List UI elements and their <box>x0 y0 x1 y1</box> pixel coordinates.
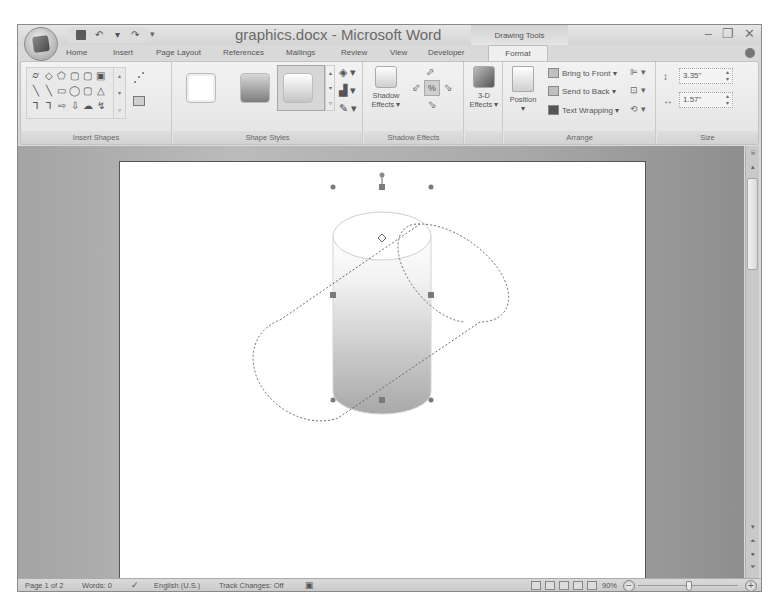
textbox-shape-icon[interactable]: ▣ <box>95 71 106 81</box>
office-button[interactable] <box>24 27 58 61</box>
rotate-button[interactable]: ⟲ ▾ <box>630 104 646 114</box>
shadow-effects-button[interactable]: Shadow Effects ▾ <box>369 66 403 109</box>
next-page-button[interactable]: ⏷ <box>747 562 758 572</box>
restore-button[interactable]: ❐ <box>722 26 734 41</box>
shadow-icon <box>375 66 397 88</box>
tab-home[interactable]: Home <box>66 45 87 61</box>
zoom-out-button[interactable]: − <box>623 580 635 592</box>
undo-dropdown-icon[interactable]: ▾ <box>112 30 122 40</box>
tab-review[interactable]: Review <box>341 45 367 61</box>
window-title: graphics.docx - Microsoft Word <box>235 26 441 43</box>
web-layout-view-icon[interactable] <box>559 581 569 590</box>
redo-icon[interactable]: ↷ <box>130 30 140 40</box>
select-browse-object-button[interactable]: ● <box>747 549 758 559</box>
more-icon[interactable]: ▿ <box>326 96 334 111</box>
line-shape-icon[interactable]: ╲ <box>30 86 41 96</box>
triangle-shape-icon[interactable]: △ <box>95 86 106 96</box>
proofing-icon[interactable]: ✓ <box>131 580 139 590</box>
octagon-shape-icon[interactable]: ⬠ <box>56 71 67 81</box>
nudge-shadow-right-icon[interactable]: ⬂ <box>444 82 452 93</box>
rectangle-shape-icon[interactable]: ▭ <box>56 86 67 96</box>
shape-height-input[interactable]: 3.35" ▴▾ <box>679 68 733 84</box>
tab-format[interactable]: Format <box>488 45 548 61</box>
group-objects-button[interactable]: ⊡ ▾ <box>630 85 646 95</box>
tab-mailings[interactable]: Mailings <box>286 45 315 61</box>
zoom-slider-thumb[interactable] <box>686 581 692 591</box>
rounded-rect-shape-icon[interactable]: ▢ <box>82 86 93 96</box>
align-button[interactable]: ⊫ ▾ <box>630 67 646 77</box>
drawing-tools-label: Drawing Tools <box>471 25 568 45</box>
nudge-shadow-down-icon[interactable]: ⬂ <box>428 99 436 110</box>
position-button[interactable]: Position ▾ <box>506 66 540 113</box>
send-to-back-button[interactable]: Send to Back ▾ <box>548 86 616 96</box>
cloud-callout-shape-icon[interactable]: ☁ <box>82 101 93 111</box>
print-layout-view-icon[interactable] <box>531 581 541 590</box>
full-screen-reading-view-icon[interactable] <box>545 581 555 590</box>
down-arrow-shape-icon[interactable]: ⇩ <box>69 101 80 111</box>
undo-icon[interactable]: ↶ <box>94 30 104 40</box>
tab-insert[interactable]: Insert <box>113 45 133 61</box>
frame-shape-icon[interactable]: ▢ <box>69 71 80 81</box>
elbow-connector-icon[interactable]: ⅂ <box>30 101 41 111</box>
word-count[interactable]: Words: 0 <box>82 581 112 590</box>
more-icon[interactable]: ▿ <box>113 102 125 119</box>
scroll-up-icon[interactable]: ▴ <box>326 66 334 81</box>
cube-shape-icon[interactable]: ▢ <box>82 71 93 81</box>
tab-view[interactable]: View <box>390 45 407 61</box>
help-icon[interactable] <box>745 48 755 58</box>
shape-fill-button[interactable]: ◈ ▾ <box>339 66 357 78</box>
tab-references[interactable]: References <box>223 45 264 61</box>
language[interactable]: English (U.S.) <box>154 581 200 590</box>
zoom-in-button[interactable]: + <box>745 580 757 592</box>
customize-qat-icon[interactable]: ▾ <box>150 29 155 39</box>
shape-width-input[interactable]: 1.57" ▴▾ <box>679 92 733 108</box>
nudge-shadow-up-icon[interactable]: ⬀ <box>426 66 434 77</box>
scroll-down-icon[interactable]: ▾ <box>326 81 334 96</box>
diamond-shape-icon[interactable]: ◇ <box>43 71 54 81</box>
3d-effects-button[interactable]: 3-D Effects ▾ <box>467 66 501 109</box>
scroll-up-button[interactable]: ▴ <box>747 162 758 172</box>
right-arrow-shape-icon[interactable]: ⇨ <box>56 101 67 111</box>
cylinder-shape[interactable] <box>120 162 647 582</box>
draft-view-icon[interactable] <box>587 581 597 590</box>
width-spinner[interactable]: ▴▾ <box>726 93 729 107</box>
nudge-shadow-left-icon[interactable]: ⬃ <box>412 82 420 93</box>
macro-recording-icon[interactable]: ▣ <box>305 580 314 590</box>
ruler-toggle-icon[interactable]: ⌸ <box>747 148 758 158</box>
can-shape-icon[interactable]: ⌭ <box>30 71 41 81</box>
scroll-down-icon[interactable]: ▾ <box>113 85 125 102</box>
change-shape-button[interactable]: ✎ ▾ <box>339 102 357 114</box>
draw-text-box-icon[interactable] <box>133 96 145 106</box>
shape-style-gradient-light[interactable] <box>283 73 313 103</box>
shape-height-row: ↕ 3.35" ▴▾ <box>663 68 733 84</box>
save-icon[interactable] <box>76 30 86 40</box>
shape-style-gradient-dark[interactable] <box>240 73 270 103</box>
document-page[interactable] <box>119 161 646 581</box>
track-changes-status[interactable]: Track Changes: Off <box>219 581 284 590</box>
oval-shape-icon[interactable]: ◯ <box>69 86 80 96</box>
shape-outline-button[interactable]: ▟ ▾ <box>339 84 357 96</box>
height-spinner[interactable]: ▴▾ <box>726 69 729 83</box>
scrollbar-thumb[interactable] <box>747 178 758 270</box>
page-count[interactable]: Page 1 of 2 <box>25 581 63 590</box>
shadow-toggle-button[interactable]: % <box>424 80 440 96</box>
tab-page-layout[interactable]: Page Layout <box>156 45 201 61</box>
shape-style-white[interactable] <box>186 73 216 103</box>
edit-shape-icon[interactable]: ⋰ <box>133 70 145 84</box>
rotate-handle <box>380 173 385 178</box>
outline-view-icon[interactable] <box>573 581 583 590</box>
zoom-level[interactable]: 90% <box>602 581 617 590</box>
curved-shape-icon[interactable]: ↯ <box>95 101 106 111</box>
vertical-scrollbar[interactable]: ⌸ ▴ ▾ ⏶ ● ⏷ <box>745 146 759 578</box>
tab-developer[interactable]: Developer <box>428 45 464 61</box>
text-wrapping-button[interactable]: Text Wrapping ▾ <box>548 105 619 115</box>
elbow-arrow-connector-icon[interactable]: ⅂ <box>43 101 54 111</box>
scroll-down-button[interactable]: ▾ <box>747 522 758 532</box>
minimize-button[interactable]: – <box>705 26 712 41</box>
close-button[interactable]: ✕ <box>744 26 755 41</box>
previous-page-button[interactable]: ⏶ <box>747 536 758 546</box>
shape-styles-scroll: ▴ ▾ ▿ <box>325 65 335 111</box>
scroll-up-icon[interactable]: ▴ <box>113 68 125 85</box>
arrow-line-shape-icon[interactable]: ╲ <box>43 86 54 96</box>
bring-to-front-button[interactable]: Bring to Front ▾ <box>548 68 617 78</box>
